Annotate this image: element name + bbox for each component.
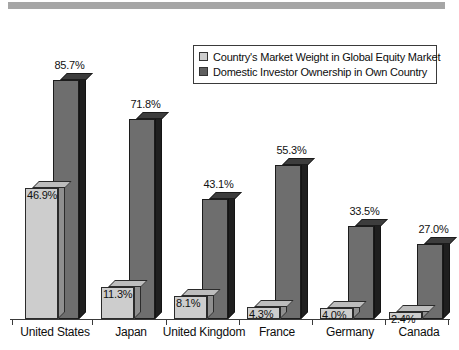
- bar-top-face: [327, 301, 367, 308]
- value-label-domestic-ownership: 71.8%: [121, 98, 170, 110]
- top-banner-strip: [8, 2, 445, 9]
- value-label-market-weight: 8.1%: [176, 297, 209, 309]
- bar-side-face: [79, 73, 86, 319]
- bar-side-face: [228, 192, 235, 319]
- x-axis-line: [10, 319, 450, 320]
- value-label-domestic-ownership: 27.0%: [409, 223, 458, 235]
- bar-domestic-ownership: [275, 165, 301, 319]
- value-label-market-weight: 4.3%: [249, 308, 282, 320]
- legend-swatch-light-icon: [199, 52, 208, 61]
- value-label-market-weight: 2.4%: [391, 313, 424, 325]
- bar-top-face: [424, 237, 457, 244]
- bar-side-face: [374, 219, 381, 319]
- plot-area: 85.7%46.9%71.8%11.3%43.1%8.1%55.3%4.3%33…: [0, 9, 459, 350]
- bar-chart: 85.7%46.9%71.8%11.3%43.1%8.1%55.3%4.3%33…: [0, 0, 459, 350]
- bar-side-face: [443, 237, 450, 319]
- bar-side-face: [58, 181, 65, 319]
- bar-market-weight: [25, 188, 58, 319]
- legend-label-domestic-ownership: Domestic Investor Ownership in Own Count…: [213, 66, 427, 78]
- legend-item-market-weight: Country's Market Weight in Global Equity…: [199, 49, 431, 64]
- bar-top-face: [60, 73, 93, 80]
- bar-front-face: [25, 188, 58, 319]
- value-label-market-weight: 11.3%: [103, 288, 136, 300]
- bar-top-face: [355, 219, 388, 226]
- value-label-domestic-ownership: 33.5%: [340, 205, 389, 217]
- value-label-domestic-ownership: 43.1%: [194, 178, 243, 190]
- bar-front-face: [275, 165, 301, 319]
- legend-label-market-weight: Country's Market Weight in Global Equity…: [213, 51, 440, 63]
- legend-item-domestic-ownership: Domestic Investor Ownership in Own Count…: [199, 64, 431, 79]
- value-label-domestic-ownership: 85.7%: [45, 59, 94, 71]
- value-label-domestic-ownership: 55.3%: [267, 144, 316, 156]
- x-axis-label: Canada: [364, 325, 459, 339]
- bar-top-face: [209, 192, 242, 199]
- chart-legend: Country's Market Weight in Global Equity…: [193, 45, 437, 84]
- bar-side-face: [155, 112, 162, 319]
- bar-top-face: [136, 112, 169, 119]
- bar-top-face: [282, 158, 315, 165]
- bar-side-face: [301, 158, 308, 319]
- value-label-market-weight: 4.0%: [322, 309, 355, 321]
- value-label-market-weight: 46.9%: [27, 189, 60, 201]
- legend-swatch-dark-icon: [199, 67, 208, 76]
- bar-top-face: [254, 300, 294, 307]
